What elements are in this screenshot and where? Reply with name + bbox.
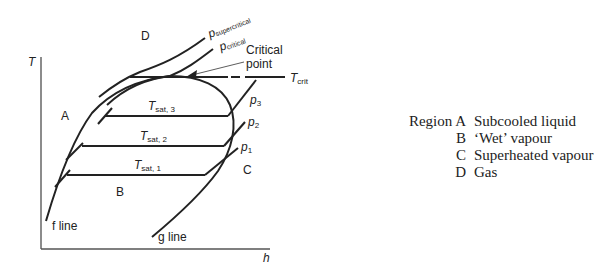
legend-key: C bbox=[362, 147, 474, 164]
p3-label: p3 bbox=[249, 93, 262, 108]
region-a-label: A bbox=[61, 109, 69, 123]
g-line bbox=[152, 76, 234, 237]
legend-key: B bbox=[362, 130, 474, 147]
critical-point-arrow-line bbox=[192, 62, 244, 75]
region-b-label: B bbox=[116, 185, 124, 199]
critical-point-arrow-head bbox=[186, 70, 197, 77]
region-d-label: D bbox=[141, 29, 150, 43]
legend-row: B ‘Wet’ vapour bbox=[362, 130, 594, 147]
p-supercritical-label: psupercritical bbox=[205, 11, 252, 41]
isobar-p2-liquid bbox=[66, 143, 83, 160]
isobar-supercritical bbox=[99, 38, 205, 97]
f-line bbox=[46, 76, 170, 221]
t-sat-3-label: Tsat, 3 bbox=[148, 99, 175, 114]
legend-key: Region A bbox=[362, 113, 474, 130]
isobar-p1-vapour bbox=[205, 148, 238, 175]
x-axis-label: h bbox=[263, 251, 270, 265]
legend-desc: ‘Wet’ vapour bbox=[474, 130, 552, 147]
t-crit-label: Tcrit bbox=[290, 71, 309, 86]
t-sat-2-label: Tsat, 2 bbox=[140, 129, 167, 144]
legend-desc: Subcooled liquid bbox=[474, 113, 576, 130]
g-line-label: g line bbox=[158, 230, 187, 244]
legend-row: Region A Subcooled liquid bbox=[362, 113, 594, 130]
f-line-label: f line bbox=[52, 219, 78, 233]
region-legend: Region A Subcooled liquid B ‘Wet’ vapour… bbox=[362, 113, 594, 181]
y-axis-label: T bbox=[28, 55, 37, 69]
p1-label: p1 bbox=[240, 140, 253, 155]
legend-desc: Gas bbox=[474, 164, 497, 181]
p2-label: p2 bbox=[247, 115, 260, 130]
t-sat-1-label: Tsat, 1 bbox=[134, 158, 161, 173]
legend-key: D bbox=[362, 164, 474, 181]
region-c-label: C bbox=[243, 163, 252, 177]
legend-desc: Superheated vapour bbox=[474, 147, 594, 164]
legend-row: C Superheated vapour bbox=[362, 147, 594, 164]
critical-point-label: Criticalpoint bbox=[246, 43, 283, 71]
legend-row: D Gas bbox=[362, 164, 594, 181]
